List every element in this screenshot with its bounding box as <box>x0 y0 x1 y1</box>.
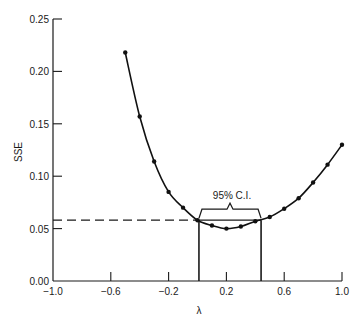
axes <box>53 19 342 281</box>
y-tick-label: 0.25 <box>30 14 50 25</box>
sse-vs-lambda-chart: 0.000.050.100.150.200.25 −1.0−0.6−0.20.2… <box>0 0 362 322</box>
data-point-marker <box>166 190 170 194</box>
data-point-marker <box>296 196 300 200</box>
data-point-marker <box>282 206 286 210</box>
data-point-marker <box>239 224 243 228</box>
x-tick-label: 1.0 <box>335 286 349 297</box>
data-point-marker <box>253 219 257 223</box>
x-tick-label: −0.2 <box>159 286 179 297</box>
y-axis-label: SSE <box>13 142 24 162</box>
data-point-marker <box>138 114 142 118</box>
x-tick-label: 0.6 <box>277 286 291 297</box>
data-point-marker <box>224 226 228 230</box>
annotations: 95% C.I. <box>199 190 261 218</box>
data-point-marker <box>123 50 127 54</box>
data-point-marker <box>181 205 185 209</box>
data-point-marker <box>311 180 315 184</box>
data-point-marker <box>340 143 344 147</box>
ci-brace <box>199 203 261 218</box>
x-tick-label: 0.2 <box>219 286 233 297</box>
data-point-marker <box>210 223 214 227</box>
data-point-marker <box>268 215 272 219</box>
y-tick-label: 0.20 <box>30 66 50 77</box>
data-point-marker <box>325 162 329 166</box>
x-axis-ticks: −1.0−0.6−0.20.20.61.0 <box>43 272 349 297</box>
x-tick-label: −0.6 <box>101 286 121 297</box>
data-point-marker <box>195 218 199 222</box>
y-tick-label: 0.10 <box>30 171 50 182</box>
data-point-marker <box>152 159 156 163</box>
x-axis-label: λ <box>197 305 202 316</box>
y-axis-ticks: 0.000.050.100.150.200.25 <box>30 14 62 287</box>
confidence-interval-lines <box>53 220 261 281</box>
y-tick-label: 0.15 <box>30 119 50 130</box>
ci-label: 95% C.I. <box>213 190 251 201</box>
y-tick-label: 0.05 <box>30 224 50 235</box>
x-tick-label: −1.0 <box>43 286 63 297</box>
sse-curve <box>125 53 342 229</box>
data-series <box>123 50 344 230</box>
